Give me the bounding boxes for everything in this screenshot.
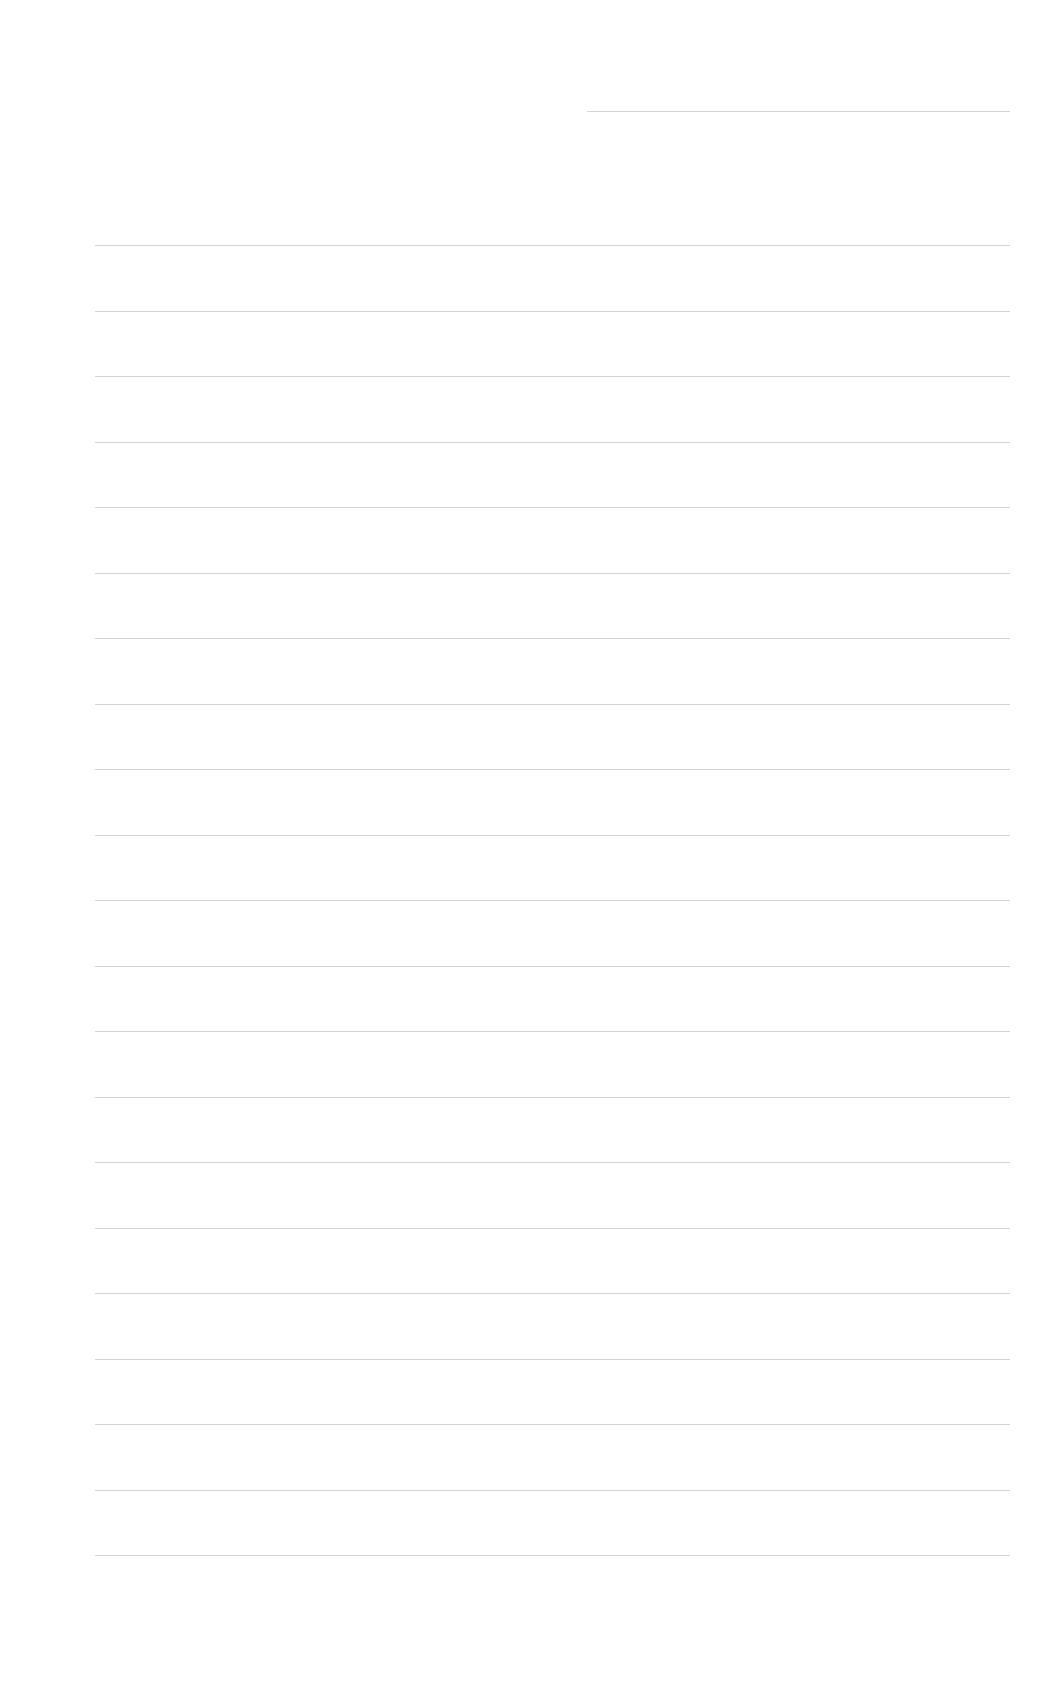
ruled-line [95,1555,1010,1556]
ruled-line [95,1228,1010,1229]
ruled-line [95,1490,1010,1491]
ruled-line [95,507,1010,508]
ruled-line [95,442,1010,443]
ruled-line [95,1424,1010,1425]
ruled-line [95,769,1010,770]
ruled-line [95,966,1010,967]
ruled-line [95,835,1010,836]
ruled-line [95,1031,1010,1032]
ruled-line [95,704,1010,705]
ruled-line [95,1162,1010,1163]
ruled-line [95,376,1010,377]
ruled-line [95,1097,1010,1098]
ruled-line [95,638,1010,639]
ruled-line [95,311,1010,312]
ruled-line [95,573,1010,574]
ruled-line [95,1293,1010,1294]
ruled-line [95,245,1010,246]
ruled-line [95,1359,1010,1360]
header-rule-line [587,111,1010,112]
ruled-line [95,900,1010,901]
